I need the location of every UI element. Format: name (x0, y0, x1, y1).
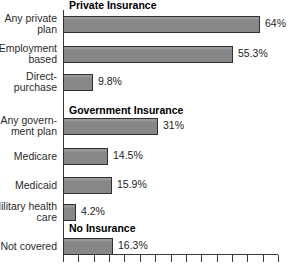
bar-category-label: Direct- purchase (0, 71, 57, 92)
bar-category-label: Not covered (0, 241, 57, 252)
bar-row: Any govern- ment plan31% (0, 116, 291, 137)
bar-value-label: 15.9% (117, 179, 147, 190)
bar-value-label: 31% (163, 120, 184, 131)
bar-value-label: 14.5% (113, 150, 143, 161)
bar-category-label: Medicaid (0, 180, 57, 191)
bar[interactable] (63, 74, 93, 91)
bar-row: Medicare14.5% (0, 146, 291, 167)
bar-row: Not covered16.3% (0, 236, 291, 257)
group-heading: No Insurance (69, 223, 136, 234)
bar-category-label: Employment based (0, 43, 57, 64)
bar-value-label: 55.3% (238, 48, 268, 59)
bar-chart: Private InsuranceGovernment InsuranceNo … (0, 0, 291, 267)
bar-category-label: Any private plan (0, 13, 57, 34)
bar[interactable] (63, 118, 158, 135)
bar-row: Military health care4.2% (0, 202, 291, 223)
bar-row: Direct- purchase9.8% (0, 72, 291, 93)
group-heading: Government Insurance (69, 105, 183, 116)
bar[interactable] (63, 204, 76, 221)
bar-value-label: 9.8% (98, 76, 122, 87)
bar-value-label: 16.3% (118, 240, 148, 251)
bar[interactable] (63, 16, 260, 33)
bar-row: Employment based55.3% (0, 44, 291, 65)
bar-category-label: Medicare (0, 151, 57, 162)
bar[interactable] (63, 177, 112, 194)
bar-value-label: 4.2% (81, 206, 105, 217)
bar[interactable] (63, 148, 108, 165)
bar-row: Any private plan64% (0, 14, 291, 35)
bar-category-label: Military health care (0, 201, 57, 222)
bar-row: Medicaid15.9% (0, 175, 291, 196)
bar[interactable] (63, 46, 233, 63)
bar-value-label: 64% (265, 18, 286, 29)
group-heading: Private Insurance (69, 0, 157, 11)
bar[interactable] (63, 238, 113, 255)
bar-category-label: Any govern- ment plan (0, 115, 57, 136)
